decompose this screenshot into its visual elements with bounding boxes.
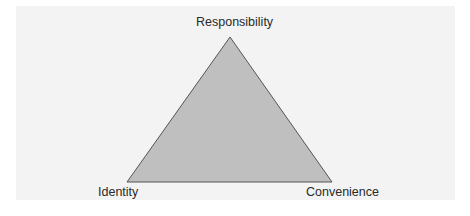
vertex-label-bottom-right: Convenience [306,185,379,199]
vertex-label-bottom-left: Identity [98,185,138,199]
vertex-label-top: Responsibility [196,15,273,29]
triangle-diagram [0,0,470,216]
triangle-shape [127,37,332,182]
